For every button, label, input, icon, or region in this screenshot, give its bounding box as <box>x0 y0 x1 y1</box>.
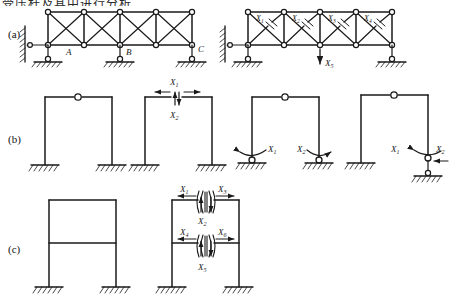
two-story-frame <box>33 200 130 293</box>
force-label-b4-x2: X2 <box>435 144 445 155</box>
row-label-a: (a) <box>8 28 20 40</box>
truss-node-label-C: C <box>198 44 205 54</box>
force-label-b2-x2: X2 <box>169 110 179 121</box>
figure-canvas: 受压杆及其中进行分析 (a) (b) (c) <box>0 0 452 307</box>
force-label-b3-x2: X2 <box>296 144 306 155</box>
diagram-svg: A B C X1 X2 X3 X4 X5 X1 X2 X1 X2 X1 X2 X… <box>0 0 452 307</box>
truss-primary-system <box>220 9 406 67</box>
truss-original <box>20 9 206 67</box>
force-label-c-x4: X4 <box>179 227 189 238</box>
truss-node-label-A: A <box>65 47 72 57</box>
force-label-a-x4: X4 <box>363 14 372 24</box>
frame-moment-released <box>236 94 333 169</box>
frame-three-hinge <box>29 94 126 171</box>
force-label-c-x2: X2 <box>197 216 207 227</box>
row-label-c: (c) <box>8 243 20 255</box>
truss-node-label-B: B <box>126 47 132 57</box>
force-label-c-x1: X1 <box>179 184 189 195</box>
two-story-frame-cut <box>156 191 253 293</box>
partial-header-text: 受压杆及其中进行分析 <box>2 0 152 6</box>
row-label-b: (b) <box>8 133 21 145</box>
force-label-b3-x1: X1 <box>267 144 277 155</box>
force-label-a-x3: X3 <box>327 14 336 24</box>
force-label-a-x2: X2 <box>291 14 300 24</box>
force-label-b2-x1: X1 <box>169 77 179 88</box>
force-label-c-x3: X3 <box>217 184 227 195</box>
force-label-c-x5: X5 <box>197 262 207 273</box>
force-label-b4-x1: X1 <box>390 144 400 155</box>
frame-moment-thrust-released <box>345 92 448 182</box>
force-label-a-x5: X5 <box>324 58 334 69</box>
frame-cut-at-crown <box>129 92 226 171</box>
force-label-c-x6: X6 <box>217 227 227 238</box>
force-label-a-x1: X1 <box>255 14 264 24</box>
